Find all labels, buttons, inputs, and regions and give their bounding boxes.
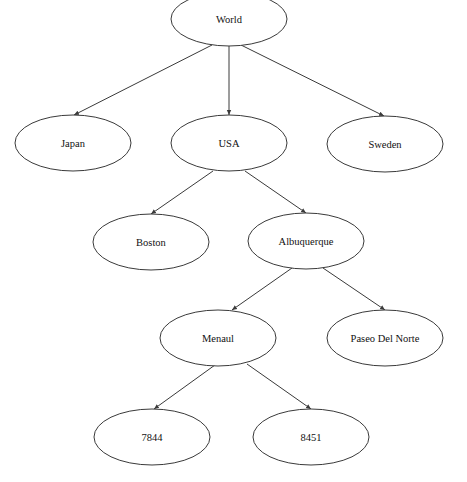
tree-diagram: WorldJapanUSASwedenBostonAlbuquerqueMena…	[0, 0, 467, 482]
node-label: Japan	[61, 138, 86, 149]
node-label: Sweden	[368, 139, 402, 150]
node-label: 7844	[142, 432, 164, 443]
node-label: Albuquerque	[279, 236, 334, 247]
edge-usa-to-boston	[151, 171, 213, 214]
edge-world-to-sweden	[241, 45, 384, 116]
node-usa: USA	[171, 115, 287, 171]
edge-menaul-to-n8451	[247, 364, 311, 409]
node-n7844: 7844	[94, 409, 210, 465]
node-sweden: Sweden	[327, 116, 443, 172]
node-label: USA	[218, 138, 239, 149]
node-albuquerque: Albuquerque	[248, 213, 364, 269]
edge-albuquerque-to-paseo-del-norte	[323, 268, 385, 310]
node-paseo-del-norte: Paseo Del Norte	[327, 310, 443, 366]
node-label: World	[216, 14, 243, 25]
edge-usa-to-albuquerque	[245, 171, 306, 213]
node-boston: Boston	[93, 214, 209, 270]
node-label: Menaul	[202, 333, 234, 344]
node-label: Paseo Del Norte	[351, 333, 420, 344]
node-world: World	[171, 0, 287, 46]
node-japan: Japan	[15, 115, 131, 171]
edge-world-to-japan	[74, 45, 212, 115]
edge-albuquerque-to-menaul	[232, 268, 292, 310]
node-menaul: Menaul	[160, 310, 276, 366]
edge-menaul-to-n7844	[154, 365, 215, 409]
node-label: 8451	[301, 432, 322, 443]
node-label: Boston	[136, 237, 167, 248]
node-n8451: 8451	[253, 409, 369, 465]
